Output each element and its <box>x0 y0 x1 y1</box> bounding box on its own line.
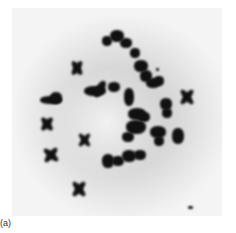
chromosome-micrograph <box>12 8 222 216</box>
figure-label: (a) <box>0 218 11 228</box>
